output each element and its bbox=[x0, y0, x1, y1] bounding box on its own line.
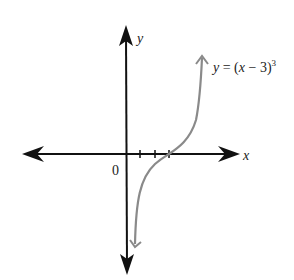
y-axis bbox=[119, 25, 134, 275]
function-label: y = (x − 3)3 bbox=[211, 58, 277, 76]
origin-label: 0 bbox=[112, 163, 119, 178]
x-axis-label: x bbox=[242, 148, 250, 163]
x-axis bbox=[22, 146, 240, 162]
y-axis-label: y bbox=[135, 31, 144, 46]
cubic-graph: y x 0 y = (x − 3)3 bbox=[0, 0, 294, 280]
